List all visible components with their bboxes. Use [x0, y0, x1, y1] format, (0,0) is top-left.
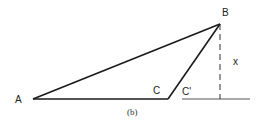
- edge-ab: [33, 24, 220, 99]
- caption: (b): [127, 107, 138, 117]
- label-c-prime: C': [182, 86, 191, 97]
- label-a: A: [15, 94, 22, 105]
- triangle-diagram: A B C C' x (b): [0, 0, 262, 123]
- label-x: x: [233, 56, 238, 67]
- label-c: C: [153, 85, 160, 96]
- label-b: B: [222, 7, 229, 18]
